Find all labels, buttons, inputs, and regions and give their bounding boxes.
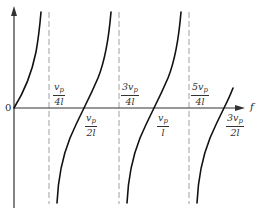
asymptote-label-3-numerator: 5vp <box>191 82 209 96</box>
origin-label: 0 <box>5 103 11 113</box>
zero-crossing-label-3-denominator: 2l <box>230 127 239 138</box>
x-axis-label: f <box>250 102 254 112</box>
asymptote-label-1-denominator: 4l <box>54 96 63 107</box>
zero-crossing-label-3: 3vp 2l <box>226 113 244 138</box>
asymptote-label-2-numerator: 3vp <box>121 82 139 96</box>
asymptote-label-3: 5vp 4l <box>191 82 209 107</box>
asymptote-label-3-denominator: 4l <box>195 96 204 107</box>
zero-crossing-label-2-numerator: vp <box>157 113 169 127</box>
zero-crossing-label-1-denominator: 2l <box>86 127 95 138</box>
zero-crossing-label-3-numerator: 3vp <box>226 113 244 127</box>
x-axis-arrow-icon <box>235 105 245 111</box>
asymptote-label-2: 3vp 4l <box>121 82 139 107</box>
zero-crossing-label-2-denominator: l <box>161 127 164 138</box>
y-axis-arrow-icon <box>11 6 17 16</box>
asymptote-label-1-numerator: vp <box>53 82 65 96</box>
asymptote-label-2-denominator: 4l <box>125 96 134 107</box>
axes <box>11 6 245 208</box>
curve-branch-0 <box>14 12 41 108</box>
asymptote-label-1: vp 4l <box>53 82 65 107</box>
zero-crossing-label-1: vp 2l <box>85 113 97 138</box>
zero-crossing-label-2: vp l <box>157 113 169 138</box>
zero-crossing-label-1-numerator: vp <box>85 113 97 127</box>
